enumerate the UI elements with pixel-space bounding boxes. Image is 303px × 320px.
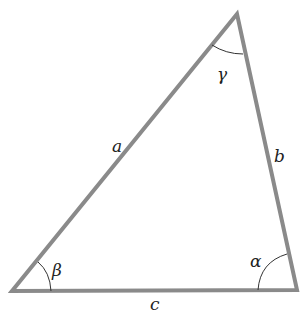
angle-arc-alpha [258, 254, 287, 290]
triangle-shape [12, 14, 297, 291]
side-label-b: b [274, 146, 285, 166]
angle-arc-beta [38, 262, 51, 291]
triangle-diagram: a b c γ β α [0, 0, 303, 320]
angle-label-alpha: α [250, 251, 262, 271]
angle-label-beta: β [51, 260, 62, 280]
angle-arc-gamma [212, 45, 243, 54]
side-label-c: c [150, 294, 160, 314]
side-label-a: a [112, 136, 122, 156]
triangle-svg: a b c γ β α [0, 0, 303, 320]
angle-label-gamma: γ [217, 64, 228, 84]
